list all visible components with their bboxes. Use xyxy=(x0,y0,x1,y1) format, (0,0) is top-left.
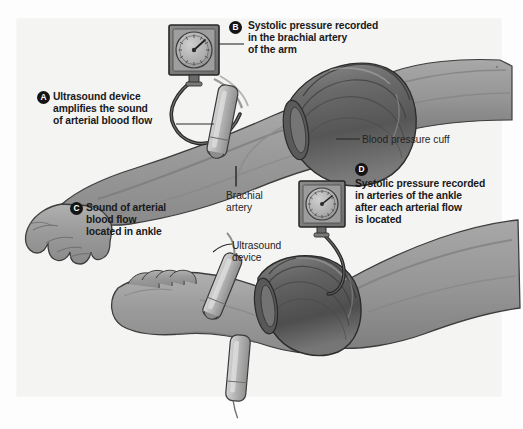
callout-badge-d: D xyxy=(355,163,368,176)
sphygmomanometer-gauge-ankle xyxy=(299,181,345,237)
callout-badge-b: B xyxy=(229,21,242,34)
callout-badge-a: A xyxy=(37,91,50,104)
annotation-blood-pressure-cuff: Blood pressure cuff xyxy=(362,134,450,146)
ultrasound-probe-ankle-lower xyxy=(224,334,251,418)
callout-text-b: Systolic pressure recorded in the brachi… xyxy=(248,20,378,56)
sphygmomanometer-gauge-arm xyxy=(169,25,219,86)
annotation-brachial-artery: Brachial artery xyxy=(226,190,263,214)
annotation-ultrasound-device: Ultrasound device xyxy=(232,240,281,264)
callout-text-a: Ultrasound device amplifies the sound of… xyxy=(53,91,152,127)
callout-text-c: Sound of arterial blood flow located in … xyxy=(86,202,166,238)
ankle-brachial-index-figure: A Ultrasound device amplifies the sound … xyxy=(0,0,523,429)
leader-line-usdevice xyxy=(213,244,232,252)
callout-badge-c: C xyxy=(70,202,83,215)
callout-text-d: Systolic pressure recorded in arteries o… xyxy=(355,178,485,227)
